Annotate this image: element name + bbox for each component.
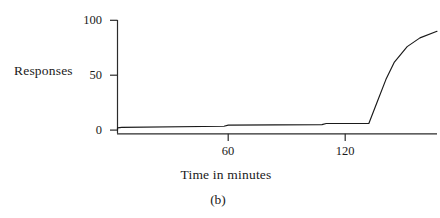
x-axis-title: Time in minutes bbox=[180, 167, 271, 183]
figure-caption: (b) bbox=[210, 192, 226, 208]
figure-panel-b: Responses 100 50 0 60 120 Time in minute… bbox=[0, 0, 440, 218]
response-curve bbox=[118, 31, 438, 130]
figure-caption-wrap: (b) bbox=[0, 192, 440, 208]
x-axis-title-wrap: Time in minutes bbox=[0, 167, 440, 183]
chart-canvas bbox=[0, 0, 440, 218]
